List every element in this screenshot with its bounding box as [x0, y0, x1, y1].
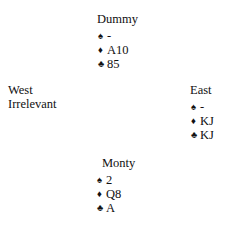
hand-label-west: West — [8, 83, 57, 97]
north-diamond-cards: A10 — [107, 43, 129, 57]
east-diamond-cards: KJ — [200, 114, 214, 128]
spade-icon: ♠ — [97, 173, 106, 187]
diamond-icon: ♦ — [97, 187, 106, 201]
hand-north-dummy: Dummy ♠- ♦A10 ♣85 — [97, 12, 138, 72]
hand-west: West Irrelevant — [8, 83, 57, 113]
north-suit-row-club: ♣85 — [97, 57, 138, 71]
spade-icon: ♠ — [191, 100, 200, 114]
south-suit-row-diamond: ♦Q8 — [97, 187, 135, 201]
east-club-cards: KJ — [200, 128, 214, 142]
south-suit-row-spade: ♠2 — [97, 173, 135, 187]
hand-east: East ♠- ♦KJ ♣KJ — [190, 83, 214, 143]
south-club-cards: A — [106, 201, 115, 215]
east-suit-row-diamond: ♦KJ — [190, 114, 214, 128]
diamond-icon: ♦ — [191, 114, 200, 128]
north-suit-row-diamond: ♦A10 — [97, 43, 138, 57]
south-suit-row-club: ♣A — [97, 201, 135, 215]
club-icon: ♣ — [98, 57, 107, 71]
hand-label-east: East — [190, 83, 214, 97]
east-suit-row-club: ♣KJ — [190, 128, 214, 142]
hand-label-north: Dummy — [97, 12, 138, 26]
hand-label-south: Monty — [102, 156, 135, 170]
club-icon: ♣ — [191, 128, 200, 142]
west-note: Irrelevant — [8, 97, 57, 113]
east-spade-cards: - — [200, 100, 204, 114]
north-spade-cards: - — [107, 29, 111, 43]
east-suit-row-spade: ♠- — [190, 100, 214, 114]
north-suit-row-spade: ♠- — [97, 29, 138, 43]
spade-icon: ♠ — [98, 29, 107, 43]
south-spade-cards: 2 — [106, 173, 112, 187]
bridge-hand-diagram: Dummy ♠- ♦A10 ♣85 West Irrelevant East ♠… — [0, 0, 235, 235]
hand-south-monty: Monty ♠2 ♦Q8 ♣A — [102, 156, 135, 216]
diamond-icon: ♦ — [98, 43, 107, 57]
club-icon: ♣ — [97, 201, 106, 215]
north-club-cards: 85 — [107, 57, 120, 71]
south-diamond-cards: Q8 — [106, 187, 121, 201]
